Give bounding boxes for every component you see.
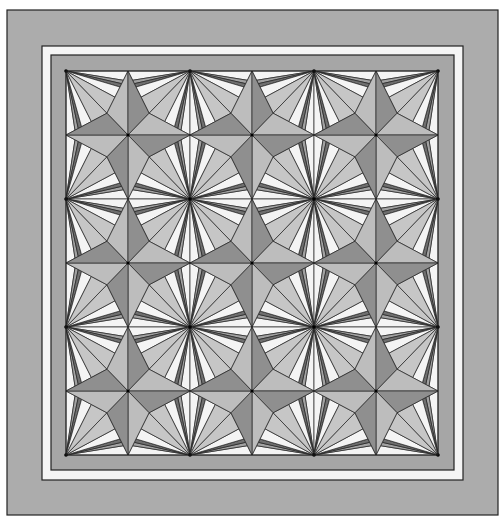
star-center-dot <box>126 389 129 392</box>
star-center-dot <box>374 133 377 136</box>
star-center-dot <box>374 261 377 264</box>
quilt-pattern <box>0 0 501 524</box>
star-center-dot <box>250 133 253 136</box>
star-center-dot <box>126 133 129 136</box>
star-center-dot <box>374 389 377 392</box>
star-center-dot <box>250 261 253 264</box>
star-center-dot <box>126 261 129 264</box>
spoke-center-dot <box>188 325 192 329</box>
spoke-center-dot <box>312 325 316 329</box>
star-center-dot <box>250 389 253 392</box>
spoke-center-dot <box>312 197 316 201</box>
spoke-center-dot <box>188 197 192 201</box>
quilt-blocks <box>64 69 440 457</box>
